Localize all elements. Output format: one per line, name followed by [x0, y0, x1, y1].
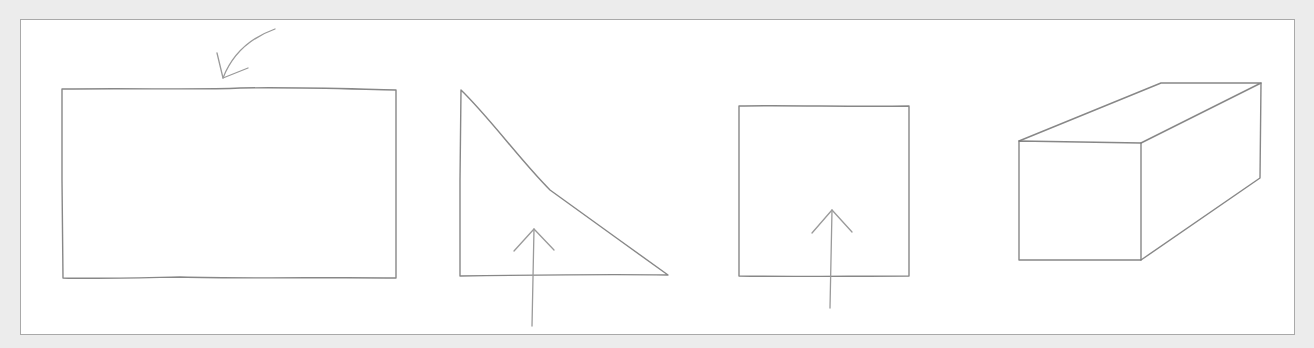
curved-arrow-icon	[217, 29, 275, 78]
rectangular-prism-sketch	[1019, 83, 1261, 260]
up-arrow-icon	[514, 229, 554, 326]
up-arrow-icon	[812, 210, 852, 308]
right-triangle-sketch	[460, 90, 668, 276]
diagram-page	[0, 0, 1314, 348]
sketch-canvas	[0, 0, 1314, 348]
rectangle-sketch	[62, 88, 396, 279]
square-sketch	[739, 106, 909, 277]
